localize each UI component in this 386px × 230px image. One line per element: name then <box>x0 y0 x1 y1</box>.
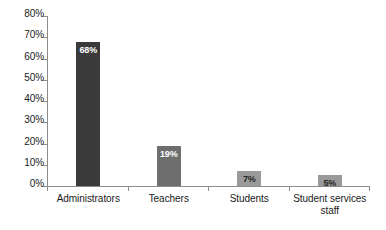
x-axis-category-label: Teachers <box>129 193 210 205</box>
y-axis-tick-mark <box>43 144 47 145</box>
bar-value-label: 5% <box>318 178 342 188</box>
x-axis-tick-mark <box>289 186 290 191</box>
y-axis-tick-label: 80% <box>24 9 44 19</box>
y-axis-tick-label: 30% <box>24 115 44 125</box>
y-axis-tick-mark <box>43 122 47 123</box>
y-axis-tick-mark <box>43 101 47 102</box>
y-axis-tick-mark <box>43 16 47 17</box>
plot-area: 68%19%7%5% <box>48 16 370 186</box>
x-axis-category-label: Administrators <box>48 193 129 205</box>
x-axis-category-label-line: staff <box>290 205 371 217</box>
x-axis-tick-mark <box>128 186 129 191</box>
x-axis-tick-mark <box>208 186 209 191</box>
x-axis-category-label-line: Student services <box>290 193 371 205</box>
x-axis-tick-mark <box>47 186 48 191</box>
y-axis-tick-label: 20% <box>24 137 44 147</box>
bar-value-label: 7% <box>237 174 261 184</box>
bar-chart: 0%10%20%30%40%50%60%70%80% 68%19%7%5% Ad… <box>0 0 386 230</box>
x-axis-tick-mark <box>369 186 370 191</box>
y-axis-tick-label: 60% <box>24 52 44 62</box>
bar[interactable]: 19% <box>157 146 181 186</box>
bar-value-label: 19% <box>157 149 181 159</box>
y-axis-tick-label: 50% <box>24 73 44 83</box>
bar[interactable]: 68% <box>76 42 100 187</box>
y-axis-tick-mark <box>43 59 47 60</box>
y-axis-tick-label: 40% <box>24 94 44 104</box>
x-axis-category-label: Student servicesstaff <box>290 193 371 217</box>
y-axis-tick-label: 10% <box>24 158 44 168</box>
bar[interactable]: 7% <box>237 171 261 186</box>
y-axis-tick-mark <box>43 80 47 81</box>
y-axis-tick-mark <box>43 37 47 38</box>
bar[interactable]: 5% <box>318 175 342 186</box>
y-axis-tick-label: 70% <box>24 30 44 40</box>
y-axis-tick-label: 0% <box>30 179 44 189</box>
x-axis-category-label: Students <box>209 193 290 205</box>
y-axis-tick-mark <box>43 165 47 166</box>
bar-value-label: 68% <box>76 45 100 55</box>
